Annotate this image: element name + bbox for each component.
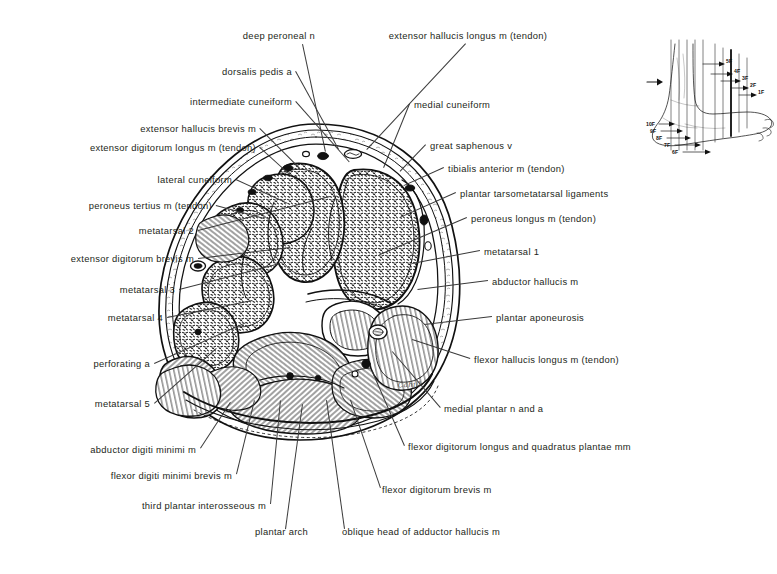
key-level-8f: 8F — [656, 135, 662, 141]
label-third-plantar-interosseous-m: third plantar interosseous m — [142, 500, 266, 511]
label-metatarsal-5: metatarsal 5 — [95, 398, 150, 409]
label-deep-peroneal-n: deep peroneal n — [243, 30, 315, 41]
label-intermediate-cuneiform: intermediate cuneiform — [190, 96, 292, 107]
anatomical-figure: deep peroneal nextensor hallucis longus … — [0, 0, 777, 574]
key-level-2f: 2F — [750, 82, 756, 88]
artist-signature: Cahill — [398, 380, 422, 389]
label-metatarsal-4: metatarsal 4 — [108, 312, 163, 323]
key-level-5f: 5F — [726, 58, 732, 64]
label-plantar-arch: plantar arch — [255, 526, 308, 537]
label-plantar-aponeurosis: plantar aponeurosis — [496, 312, 584, 323]
key-level-1f: 1F — [758, 89, 764, 95]
key-level-4f: 4F — [734, 68, 740, 74]
section-level-key-inset: 5F 4F 3F 2F 1F 10F 9F 8F 7F 6F — [645, 38, 777, 170]
label-metatarsal-1: metatarsal 1 — [484, 246, 539, 257]
foot-cross-section-illustration — [140, 118, 490, 448]
label-lateral-cuneiform: lateral cuneiform — [158, 174, 232, 185]
label-medial-cuneiform: medial cuneiform — [414, 99, 490, 110]
label-tibialis-anterior-tendon: tibialis anterior m (tendon) — [448, 163, 565, 174]
key-level-3f: 3F — [742, 75, 748, 81]
label-metatarsal-3: metatarsal 3 — [120, 284, 175, 295]
label-peroneus-longus-tendon: peroneus longus m (tendon) — [471, 213, 596, 224]
label-medial-plantar-n-and-a: medial plantar n and a — [444, 403, 543, 414]
label-flexor-hallucis-longus-tendon: flexor hallucis longus m (tendon) — [474, 354, 619, 365]
label-metatarsal-2: metatarsal 2 — [139, 225, 194, 236]
label-extensor-hallucis-longus-tendon: extensor hallucis longus m (tendon) — [389, 30, 548, 41]
label-plantar-tarsometatarsal-ligaments: plantar tarsometatarsal ligaments — [460, 188, 609, 199]
label-great-saphenous-v: great saphenous v — [430, 140, 512, 151]
label-abductor-digiti-minimi-m: abductor digiti minimi m — [90, 444, 196, 455]
label-perforating-a: perforating a — [93, 358, 150, 369]
label-extensor-hallucis-brevis-m: extensor hallucis brevis m — [140, 123, 256, 134]
label-flexor-digitorum-longus-quadratus: flexor digitorum longus and quadratus pl… — [408, 441, 631, 452]
key-level-10f: 10F — [646, 121, 655, 127]
label-dorsalis-pedis-a: dorsalis pedis a — [222, 66, 292, 77]
label-extensor-digitorum-brevis-m: extensor digitorum brevis m — [71, 253, 194, 264]
label-oblique-head-adductor-hallucis: oblique head of adductor hallucis m — [342, 526, 500, 537]
label-abductor-hallucis-m: abductor hallucis m — [492, 276, 578, 287]
label-extensor-digitorum-longus-tendon: extensor digitorum longus m (tendon) — [90, 142, 256, 153]
key-level-9f: 9F — [650, 128, 656, 134]
label-flexor-digitorum-brevis-m: flexor digitorum brevis m — [382, 484, 492, 495]
label-flexor-digiti-minimi-brevis-m: flexor digiti minimi brevis m — [111, 470, 232, 481]
key-level-7f: 7F — [664, 142, 670, 148]
key-level-6f: 6F — [672, 149, 678, 155]
label-peroneus-tertius-tendon: peroneus tertius m (tendon) — [89, 200, 212, 211]
